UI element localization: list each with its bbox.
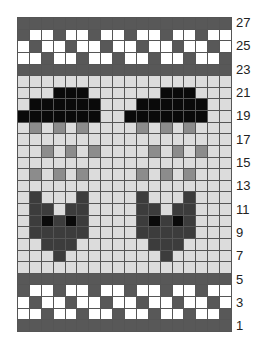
stitch-cell — [196, 216, 207, 227]
stitch-cell — [54, 134, 65, 145]
stitch-cell — [196, 158, 207, 169]
stitch-cell — [89, 65, 100, 76]
stitch-cell — [113, 320, 124, 331]
stitch-cell — [125, 53, 136, 64]
stitch-cell — [54, 262, 65, 273]
stitch-cell — [184, 18, 195, 29]
stitch-cell — [196, 99, 207, 110]
stitch-cell — [196, 297, 207, 308]
stitch-cell — [220, 285, 231, 296]
stitch-cell — [173, 158, 184, 169]
stitch-cell — [54, 76, 65, 87]
stitch-cell — [137, 123, 148, 134]
stitch-cell — [77, 274, 88, 285]
stitch-cell — [89, 41, 100, 52]
stitch-cell — [161, 146, 172, 157]
stitch-cell — [208, 53, 219, 64]
stitch-cell — [77, 204, 88, 215]
stitch-cell — [54, 111, 65, 122]
stitch-cell — [161, 53, 172, 64]
stitch-cell — [149, 53, 160, 64]
stitch-cell — [54, 274, 65, 285]
stitch-cell — [125, 192, 136, 203]
stitch-cell — [125, 88, 136, 99]
stitch-cell — [42, 297, 53, 308]
stitch-cell — [161, 18, 172, 29]
stitch-cell — [137, 262, 148, 273]
stitch-cell — [196, 30, 207, 41]
stitch-cell — [161, 204, 172, 215]
stitch-cell — [137, 53, 148, 64]
stitch-cell — [18, 111, 29, 122]
stitch-cell — [208, 76, 219, 87]
stitch-cell — [30, 297, 41, 308]
stitch-cell — [101, 285, 112, 296]
stitch-cell — [113, 111, 124, 122]
stitch-cell — [220, 30, 231, 41]
stitch-cell — [54, 18, 65, 29]
stitch-cell — [54, 239, 65, 250]
stitch-cell — [113, 76, 124, 87]
stitch-cell — [125, 18, 136, 29]
stitch-cell — [113, 158, 124, 169]
stitch-cell — [137, 297, 148, 308]
stitch-cell — [101, 88, 112, 99]
stitch-cell — [125, 41, 136, 52]
stitch-cell — [101, 65, 112, 76]
stitch-cell — [101, 123, 112, 134]
stitch-cell — [173, 251, 184, 262]
stitch-cell — [125, 262, 136, 273]
stitch-cell — [149, 169, 160, 180]
stitch-cell — [101, 192, 112, 203]
stitch-cell — [149, 134, 160, 145]
stitch-cell — [149, 18, 160, 29]
stitch-cell — [77, 285, 88, 296]
row-number-labels: 27252321191715131197531 — [236, 17, 260, 332]
stitch-cell — [196, 146, 207, 157]
stitch-cell — [42, 158, 53, 169]
stitch-cell — [77, 111, 88, 122]
stitch-cell — [18, 262, 29, 273]
stitch-cell — [42, 30, 53, 41]
stitch-cell — [113, 204, 124, 215]
stitch-cell — [42, 262, 53, 273]
stitch-cell — [18, 53, 29, 64]
stitch-cell — [196, 285, 207, 296]
stitch-cell — [149, 41, 160, 52]
stitch-cell — [125, 320, 136, 331]
stitch-cell — [184, 111, 195, 122]
stitch-cell — [54, 216, 65, 227]
stitch-cell — [77, 30, 88, 41]
stitch-cell — [208, 285, 219, 296]
stitch-cell — [161, 227, 172, 238]
stitch-cell — [54, 146, 65, 157]
stitch-cell — [77, 309, 88, 320]
stitch-cell — [125, 111, 136, 122]
stitch-cell — [30, 76, 41, 87]
stitch-cell — [18, 204, 29, 215]
stitch-cell — [66, 169, 77, 180]
stitch-cell — [89, 216, 100, 227]
stitch-cell — [18, 134, 29, 145]
stitch-cell — [54, 192, 65, 203]
stitch-cell — [125, 216, 136, 227]
stitch-cell — [196, 169, 207, 180]
stitch-cell — [220, 111, 231, 122]
stitch-cell — [66, 76, 77, 87]
stitch-cell — [113, 251, 124, 262]
stitch-cell — [54, 169, 65, 180]
stitch-cell — [196, 53, 207, 64]
row-label: 15 — [236, 157, 250, 169]
stitch-cell — [101, 30, 112, 41]
stitch-cell — [113, 285, 124, 296]
stitch-cell — [66, 158, 77, 169]
stitch-cell — [66, 181, 77, 192]
row-label: 23 — [236, 64, 250, 76]
stitch-cell — [101, 204, 112, 215]
stitch-cell — [77, 169, 88, 180]
stitch-cell — [42, 274, 53, 285]
stitch-cell — [30, 134, 41, 145]
stitch-cell — [173, 134, 184, 145]
stitch-cell — [173, 309, 184, 320]
stitch-cell — [220, 76, 231, 87]
